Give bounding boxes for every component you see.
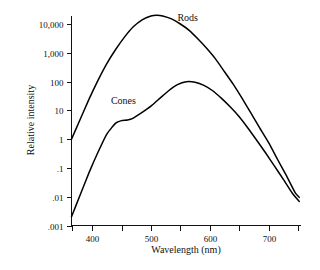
y-tick-label: 1 (59, 135, 64, 145)
x-tick-label: 400 (86, 234, 100, 244)
y-tick-label: .001 (48, 222, 64, 232)
spectral-sensitivity-chart: 10,0001,000100101.1.01.001 400500600700 … (0, 0, 320, 270)
y-tick-label: 1,000 (43, 49, 64, 59)
y-tick-label: .01 (52, 193, 63, 203)
y-tick-label: 100 (50, 78, 64, 88)
y-axis-title: Relative intensity (25, 85, 36, 155)
x-tick-label: 700 (263, 234, 277, 244)
y-tick-label: .1 (57, 164, 64, 174)
curve-label-cones: Cones (111, 95, 136, 106)
y-tick-label: 10,000 (39, 20, 64, 30)
x-tick-label: 600 (204, 234, 218, 244)
x-tick-label: 500 (145, 234, 159, 244)
x-axis-title: Wavelength (nm) (151, 244, 220, 256)
curve-label-rods: Rods (177, 12, 198, 23)
y-tick-label: 10 (55, 106, 65, 116)
chart-figure: 10,0001,000100101.1.01.001 400500600700 … (0, 0, 320, 270)
